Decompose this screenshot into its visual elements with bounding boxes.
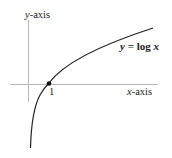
equation-x: x — [153, 40, 159, 52]
tick-label-one: 1 — [49, 87, 54, 98]
y-axis-label: y-axis — [25, 10, 50, 21]
x-axis-suffix: -axis — [132, 86, 152, 97]
equation-mid: = log — [125, 40, 154, 52]
y-axis-suffix: -axis — [30, 9, 50, 20]
equation-label: y = log x — [120, 41, 159, 52]
log-graph — [0, 0, 172, 158]
x-axis-label: x-axis — [127, 87, 152, 98]
